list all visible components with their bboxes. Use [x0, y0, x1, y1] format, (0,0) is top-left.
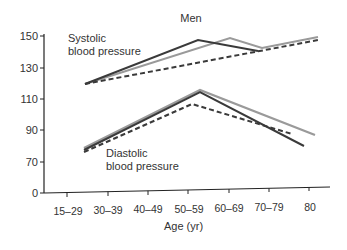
x-tick-label: 80	[304, 201, 316, 213]
y-tick-label: 70	[26, 156, 38, 168]
y-tick-label: 0	[32, 187, 38, 199]
diastolic-dark-line	[84, 92, 304, 150]
x-tick-label: 60–69	[214, 202, 243, 214]
diastolic-dashed-line	[84, 104, 292, 152]
chart-title: Men	[0, 12, 347, 24]
y-tick-label: 110	[20, 93, 38, 105]
x-tick-label: 70–79	[254, 201, 283, 213]
x-tick-label: 15–29	[53, 205, 82, 217]
diastolic-gray-line	[84, 90, 315, 148]
diastolic-annotation: Diastolic blood pressure	[106, 147, 179, 173]
diastolic-annotation-line1: Diastolic	[106, 147, 179, 160]
x-axis	[44, 187, 330, 193]
x-axis-label: Age (yr)	[0, 220, 347, 232]
y-tick-label: 90	[26, 124, 38, 136]
x-tick-label: 30–39	[93, 204, 122, 216]
x-tick-label: 50–59	[174, 203, 203, 215]
y-tick-label: 130	[20, 62, 38, 74]
y-tick-label: 150	[20, 30, 38, 42]
diastolic-annotation-line2: blood pressure	[106, 160, 179, 173]
systolic-annotation-line1: Systolic	[68, 32, 141, 45]
systolic-annotation: Systolic blood pressure	[68, 32, 141, 58]
systolic-annotation-line2: blood pressure	[68, 45, 141, 58]
chart-area: Men 150 130 110 90 70 0 15–29 30–39 40–4…	[0, 0, 347, 250]
x-tick-label: 40–49	[133, 203, 162, 215]
